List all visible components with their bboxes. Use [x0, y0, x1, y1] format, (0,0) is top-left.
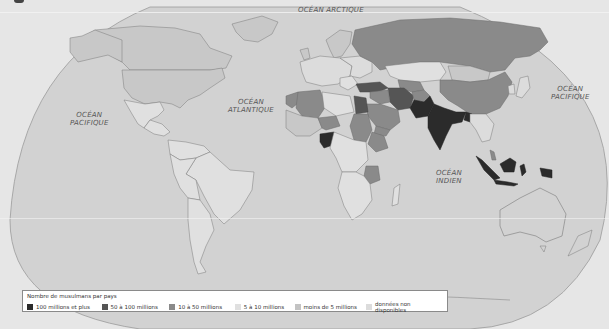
ocean-label-text: INDIEN	[436, 177, 462, 185]
legend-label: 50 à 100 millions	[111, 304, 158, 310]
ocean-label-text: OCÉAN ARCTIQUE	[298, 6, 364, 14]
legend-item-50-100: 50 à 100 millions	[102, 304, 170, 310]
legend-item-10-50: 10 à 50 millions	[169, 304, 235, 310]
map-legend: Nombre de musulmans par pays 100 million…	[22, 290, 448, 312]
world-map: OCÉAN ARCTIQUE OCÉAN PACIFIQUE OCÉAN ATL…	[0, 0, 609, 329]
country-egypt	[354, 96, 368, 114]
ocean-label-text: PACIFIQUE	[70, 119, 109, 127]
ocean-label-arctic: OCÉAN ARCTIQUE	[298, 6, 364, 14]
legend-swatch	[295, 304, 301, 310]
ocean-label-text: OCÉAN	[436, 169, 462, 177]
ocean-label-text: OCÉAN	[70, 111, 109, 119]
legend-label: moins de 5 millions	[304, 304, 357, 310]
country-korea	[508, 84, 515, 94]
legend-label: 100 millions et plus	[36, 304, 90, 310]
scan-artifact	[0, 218, 609, 219]
legend-item-5-10: 5 à 10 millions	[235, 304, 295, 310]
ocean-label-indian: OCÉAN INDIEN	[436, 169, 462, 185]
ocean-label-atlantic: OCÉAN ATLANTIQUE	[228, 98, 274, 114]
legend-label: données non disponibles	[375, 301, 443, 313]
legend-swatch	[27, 304, 33, 310]
ocean-label-text: OCÉAN	[551, 85, 590, 93]
legend-item-under-5: moins de 5 millions	[295, 304, 367, 310]
ocean-label-pacific-west: OCÉAN PACIFIQUE	[70, 111, 109, 127]
legend-swatch	[169, 304, 175, 310]
legend-title: Nombre de musulmans par pays	[27, 292, 443, 300]
legend-swatch	[366, 304, 372, 310]
legend-label: 10 à 50 millions	[178, 304, 222, 310]
legend-item-no-data: données non disponibles	[366, 301, 443, 313]
ocean-label-text: PACIFIQUE	[551, 93, 590, 101]
legend-swatch	[102, 304, 108, 310]
ocean-label-pacific-east: OCÉAN PACIFIQUE	[551, 85, 590, 101]
ocean-label-text: OCÉAN	[228, 98, 274, 106]
map-canvas	[0, 0, 609, 329]
legend-items: 100 millions et plus 50 à 100 millions 1…	[27, 301, 443, 313]
legend-swatch	[235, 304, 241, 310]
legend-item-100-plus: 100 millions et plus	[27, 304, 102, 310]
ocean-label-text: ATLANTIQUE	[228, 106, 274, 114]
legend-label: 5 à 10 millions	[244, 304, 284, 310]
